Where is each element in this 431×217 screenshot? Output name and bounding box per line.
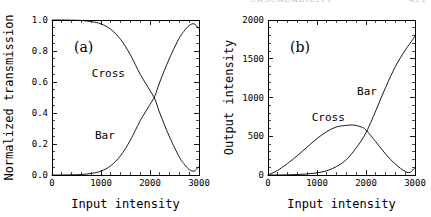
panel-tag: (b) <box>290 39 310 55</box>
y-tick-label: 0.4 <box>32 108 48 118</box>
y-tick-label: 0.0 <box>32 170 48 180</box>
curve-annotation-cross: Cross <box>92 67 125 80</box>
panel-tag: (a) <box>74 39 93 55</box>
curve-cross <box>268 125 415 175</box>
x-tick-label: 1000 <box>90 178 112 188</box>
x-tick-label: 0 <box>49 178 54 188</box>
y-tick-label: 1500 <box>242 54 264 64</box>
y-tick-label: 0.2 <box>32 139 48 149</box>
y-tick-label: 2000 <box>242 15 264 25</box>
chart-panel-b: 01000200030000500100015002000BarCross(b)… <box>222 15 426 211</box>
y-tick-label: 1000 <box>242 93 264 103</box>
y-tick-label: 500 <box>248 131 264 141</box>
y-axis-title: Output intensity <box>222 40 236 156</box>
y-tick-label: 0.8 <box>32 46 48 56</box>
y-tick-label: 0.6 <box>32 77 48 87</box>
curve-annotation-bar: Bar <box>95 129 115 142</box>
x-axis-title: Input intensity <box>71 197 179 211</box>
y-tick-label: 1.0 <box>32 15 48 25</box>
x-axis-title: Input intensity <box>287 197 395 211</box>
x-tick-label: 3000 <box>404 178 426 188</box>
x-tick-label: 1000 <box>306 178 328 188</box>
x-tick-label: 2000 <box>139 178 161 188</box>
curve-annotation-cross: Cross <box>312 111 345 124</box>
figure-two-panel-transmission-plot: 01000200030000.00.20.40.60.81.0CrossBar(… <box>0 0 431 217</box>
chart-panel-a: 01000200030000.00.20.40.60.81.0CrossBar(… <box>2 14 210 211</box>
curve-bar <box>268 36 415 175</box>
curve-annotation-bar: Bar <box>357 85 377 98</box>
y-axis-title: Normalized transmission <box>2 14 16 180</box>
x-tick-label: 2000 <box>355 178 377 188</box>
x-tick-label: 3000 <box>188 178 210 188</box>
y-tick-label: 0 <box>259 170 264 180</box>
x-tick-label: 0 <box>265 178 270 188</box>
